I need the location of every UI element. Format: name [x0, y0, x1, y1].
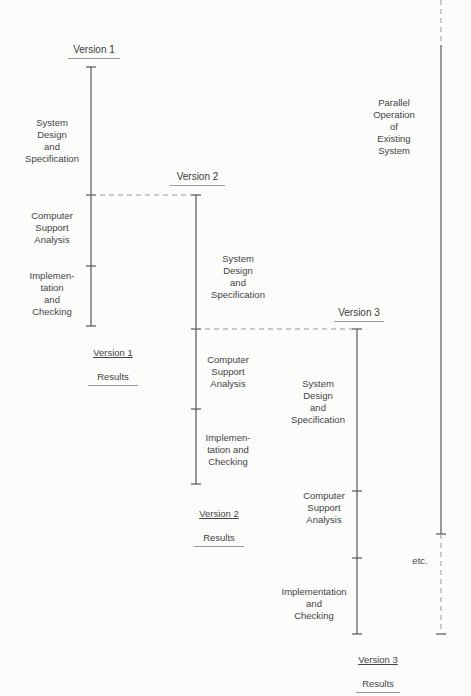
v2-phase-design: System Design and Specification	[204, 253, 272, 301]
version2-title: Version 2	[170, 171, 225, 186]
v1-phase-analysis: Computer Support Analysis	[18, 210, 86, 246]
v1-results: Version 1 Results	[88, 335, 138, 398]
v3-results: Version 3 Results	[356, 642, 400, 696]
v2-phase-implementation: Implemen- tation and Checking	[194, 432, 262, 468]
v3-phase-design: System Design and Specification	[284, 378, 352, 426]
v1-phase-design: System Design and Specification	[18, 117, 86, 165]
version3-title: Version 3	[334, 307, 384, 322]
v2-results: Version 2 Results	[194, 496, 244, 559]
v3-phase-analysis: Computer Support Analysis	[290, 490, 358, 526]
etc-label: etc.	[408, 555, 432, 567]
version1-title: Version 1	[68, 44, 120, 59]
v1-phase-implementation: Implemen- tation and Checking	[18, 270, 86, 318]
v3-phase-implementation: Implementation and Checking	[274, 586, 354, 622]
parallel-operation-label: Parallel Operation of Existing System	[360, 97, 428, 157]
v2-phase-analysis: Computer Support Analysis	[194, 354, 262, 390]
